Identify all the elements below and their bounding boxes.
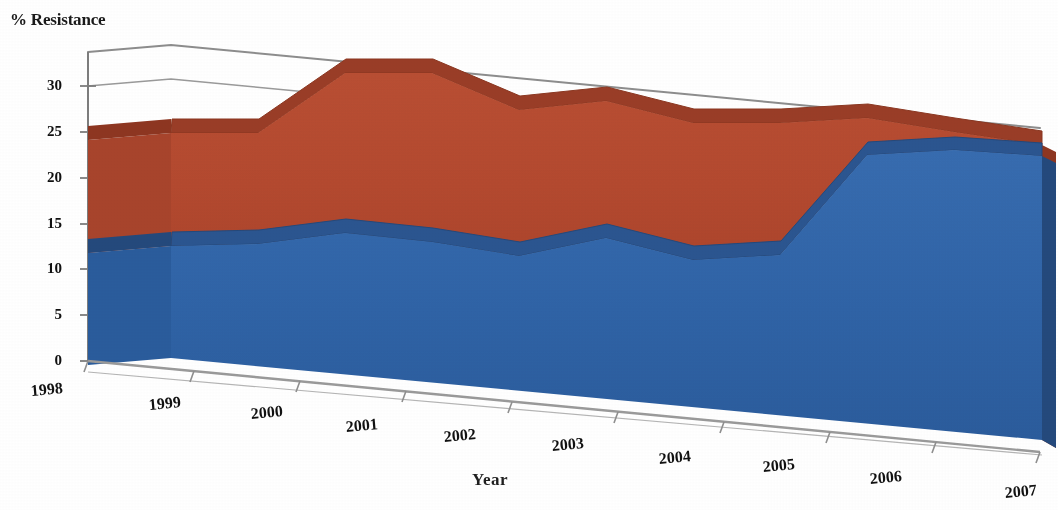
y-tick-label: 20 (22, 169, 62, 186)
x-tick-label: 2006 (869, 467, 902, 488)
x-tick-label: 1999 (148, 393, 181, 414)
chart-canvas: % Resistance (0, 0, 1058, 510)
y-tick-label: 5 (22, 306, 62, 323)
series-blue-right-cap (1042, 156, 1056, 448)
x-axis-title: Year (472, 470, 508, 490)
chart-plot-area (0, 0, 1058, 510)
x-tick-label: 2002 (443, 425, 476, 446)
y-tick-label: 30 (22, 77, 62, 94)
x-tick-label: 2001 (345, 415, 378, 436)
y-tick-label: 25 (22, 123, 62, 140)
x-tick-label: 2004 (658, 447, 691, 468)
y-tick-label: 15 (22, 215, 62, 232)
y-tick-label: 10 (22, 260, 62, 277)
series-blue-left-cap (88, 232, 171, 365)
x-tick-label: 2003 (551, 434, 584, 455)
x-tick-label: 1998 (30, 379, 63, 400)
x-tick-label: 2005 (762, 455, 795, 476)
x-tick-label: 2000 (250, 402, 283, 423)
series-red-left-cap (88, 119, 171, 253)
y-tick-label: 0 (22, 352, 62, 369)
